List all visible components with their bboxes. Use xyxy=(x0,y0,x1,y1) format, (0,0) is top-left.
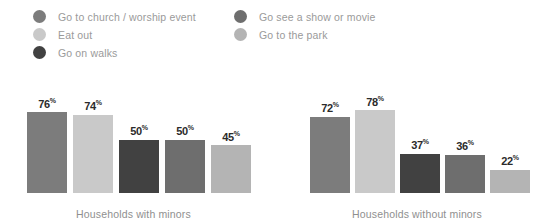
chart-legend: Go to church / worship event Eat out Go … xyxy=(0,0,533,60)
bar-item[interactable]: 74% xyxy=(73,87,113,193)
legend-dot-icon xyxy=(33,10,46,23)
bar-rect[interactable] xyxy=(211,145,251,193)
bar-rect[interactable] xyxy=(73,115,113,193)
bar-rect[interactable] xyxy=(27,112,67,193)
bar-value-label: 76% xyxy=(38,97,56,110)
legend-item-label: Go see a show or movie xyxy=(259,11,376,23)
bar-value-label: 37% xyxy=(411,138,429,151)
legend-item-label: Eat out xyxy=(58,29,92,41)
legend-item-label: Go on walks xyxy=(58,47,117,59)
bar-value-label: 74% xyxy=(84,99,102,112)
legend-dot-icon xyxy=(234,28,247,41)
bar-rect[interactable] xyxy=(355,110,395,193)
legend-item: Go to church / worship event xyxy=(33,8,196,25)
legend-column-left: Go to church / worship event Eat out Go … xyxy=(33,8,196,62)
legend-item: Go on walks xyxy=(33,44,196,61)
bar-value-label: 50% xyxy=(130,124,148,137)
bar-item[interactable]: 45% xyxy=(211,87,251,193)
bar-rect[interactable] xyxy=(165,140,205,193)
group-axis-label: Households without minors xyxy=(316,208,518,220)
bar-item[interactable]: 78% xyxy=(355,87,395,193)
bar-item[interactable]: 22% xyxy=(490,87,530,193)
legend-item: Go see a show or movie xyxy=(234,8,376,25)
bar-value-label: 50% xyxy=(176,124,194,137)
legend-item: Eat out xyxy=(33,26,196,43)
bar-rect[interactable] xyxy=(490,170,530,193)
bar-group-households-with-minors: 76% 74% 50% 50% 45% Households with mino… xyxy=(27,60,240,220)
bar-value-label: 36% xyxy=(456,139,474,152)
bar-group-households-without-minors: 72% 78% 37% 36% 22% Households without m… xyxy=(310,60,512,220)
bar-item[interactable]: 36% xyxy=(445,87,485,193)
bar-rect[interactable] xyxy=(310,117,350,193)
legend-dot-icon xyxy=(234,10,247,23)
legend-dot-icon xyxy=(33,46,46,59)
bar-item[interactable]: 72% xyxy=(310,87,350,193)
bar-group-bars: 76% 74% 50% 50% 45% xyxy=(27,87,251,193)
bar-item[interactable]: 37% xyxy=(400,87,440,193)
bar-rect[interactable] xyxy=(119,140,159,193)
group-axis-label: Households with minors xyxy=(27,208,240,220)
bar-value-label: 72% xyxy=(321,101,339,114)
legend-dot-icon xyxy=(33,28,46,41)
bar-item[interactable]: 50% xyxy=(119,87,159,193)
bar-group-bars: 72% 78% 37% 36% 22% xyxy=(310,87,530,193)
legend-column-right: Go see a show or movie Go to the park xyxy=(234,8,376,44)
legend-item-label: Go to the park xyxy=(259,29,328,41)
bar-chart: 76% 74% 50% 50% 45% Households with mino… xyxy=(0,60,533,220)
bar-value-label: 45% xyxy=(222,130,240,143)
bar-value-label: 22% xyxy=(501,154,519,167)
bar-item[interactable]: 50% xyxy=(165,87,205,193)
bar-rect[interactable] xyxy=(445,155,485,193)
legend-item-label: Go to church / worship event xyxy=(58,11,196,23)
bar-value-label: 78% xyxy=(366,95,384,108)
bar-rect[interactable] xyxy=(400,154,440,193)
bar-item[interactable]: 76% xyxy=(27,87,67,193)
legend-item: Go to the park xyxy=(234,26,376,43)
